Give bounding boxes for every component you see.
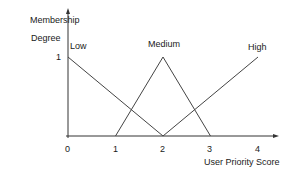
x-axis-label: User Priority Score: [204, 157, 280, 167]
x-tick-3: 3: [207, 144, 212, 154]
series-medium-line: [116, 57, 211, 136]
chart-canvas: [0, 0, 291, 172]
y-axis-label-line1: Membership: [30, 15, 80, 25]
x-axis-arrow-icon: [273, 134, 279, 138]
series-medium-label: Medium: [148, 39, 180, 49]
series-high-label: High: [248, 42, 267, 52]
x-tick-2: 2: [160, 144, 165, 154]
series-low-line: [68, 57, 163, 136]
y-axis-arrow-icon: [66, 8, 70, 14]
series-high-line: [163, 57, 258, 136]
x-tick-1: 1: [113, 144, 118, 154]
series-low-label: Low: [70, 41, 87, 51]
y-axis-label-line2: Degree: [31, 33, 61, 43]
y-tick-1: 1: [56, 52, 61, 62]
x-tick-4: 4: [255, 144, 260, 154]
x-tick-0: 0: [65, 144, 70, 154]
